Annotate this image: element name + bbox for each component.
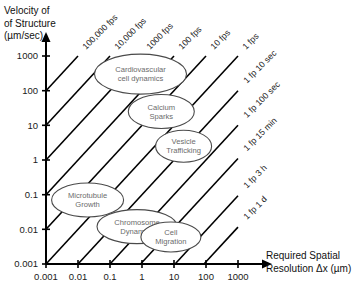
x-axis-title-line-0: Required Spatial: [266, 250, 340, 261]
chart-root: 100,000 fps10,000 fps1000 fps100 fps10 f…: [0, 0, 359, 289]
bubble-label-calcium-sparks-line-1: Sparks: [149, 112, 173, 121]
x-tick-label-0: 0.001: [34, 271, 58, 282]
iso-rate-label-9: 1 fp 3 h: [241, 163, 269, 191]
y-tick-label-0: 1000: [17, 50, 38, 61]
bubble-label-cardiovascular-cell-dynamics-line-1: cell dynamics: [118, 74, 164, 83]
x-tick-label-6: 1000: [227, 271, 248, 282]
x-axis-title-line-1: Resolution Δx (µm): [266, 263, 351, 274]
y-axis-title-line-0: Velocity of: [4, 5, 50, 16]
iso-rate-label-5: 1 fps: [240, 31, 261, 52]
y-tick-label-2: 10: [27, 120, 38, 131]
bubble-label-vesicle-trafficking-line-0: Vesicle: [172, 137, 196, 146]
x-tick-label-3: 1: [139, 271, 144, 282]
x-tick-label-2: 0.1: [103, 271, 116, 282]
bubble-label-cell-migration-line-1: Migration: [155, 237, 186, 246]
bubble-label-microtubule-growth-line-0: Microtubule: [68, 191, 107, 200]
bubble-label-cardiovascular-cell-dynamics-line-0: Cardiovascular: [115, 65, 166, 74]
bubble-label-calcium-sparks-line-0: Calcium: [148, 103, 175, 112]
y-tick-label-5: 0.01: [20, 224, 39, 235]
x-tick-label-1: 0.01: [69, 271, 88, 282]
y-ticks-group: 10001001010.10.010.001: [14, 50, 50, 269]
annotation-bubbles-group: Cardiovascularcell dynamicsCalciumSparks…: [52, 54, 212, 252]
y-tick-label-6: 0.001: [14, 258, 38, 269]
y-axis-title-line-2: (µm/sec): [4, 30, 43, 41]
y-tick-label-4: 0.1: [25, 189, 38, 200]
iso-rate-label-8: 1 fp 15 min: [241, 115, 279, 153]
x-tick-label-5: 100: [198, 271, 214, 282]
iso-rate-label-10: 1 fp 1 d: [241, 194, 269, 222]
iso-rate-line-10: [204, 227, 238, 264]
iso-rate-label-2: 1000 fps: [144, 20, 175, 51]
iso-rate-label-3: 100 fps: [176, 24, 204, 52]
x-tick-label-4: 10: [169, 271, 180, 282]
bubble-label-vesicle-trafficking-line-1: Trafficking: [166, 146, 201, 155]
y-tick-label-1: 100: [22, 85, 38, 96]
y-axis-title-line-1: of Structure: [4, 18, 56, 29]
iso-rate-label-4: 10 fps: [208, 27, 232, 51]
bubble-label-microtubule-growth-line-1: Growth: [75, 200, 99, 209]
bubble-label-cell-migration-line-0: Cell: [164, 228, 177, 237]
iso-rate-line-0: [46, 56, 78, 91]
y-tick-label-3: 1: [33, 154, 38, 165]
velocity-vs-resolution-chart: 100,000 fps10,000 fps1000 fps100 fps10 f…: [0, 0, 359, 289]
